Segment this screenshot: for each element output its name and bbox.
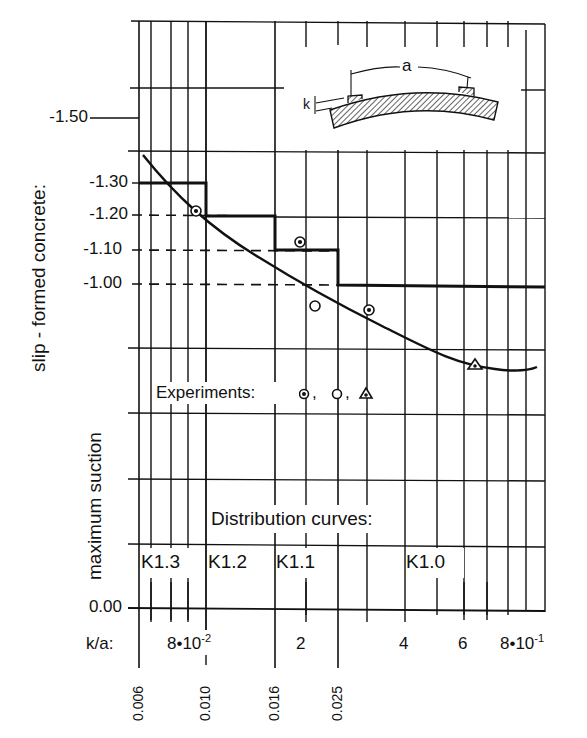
legend-comma-2: , xyxy=(345,383,350,403)
region-k1-1: K1.1 xyxy=(276,551,315,573)
region-k1-3: K1.3 xyxy=(141,551,180,573)
y-axis-label-bottom: maximum suction xyxy=(84,432,106,580)
x-tick-6: 6 xyxy=(458,634,467,654)
x-rot-0-016: 0.016 xyxy=(266,686,282,721)
x-rot-0-006: 0.006 xyxy=(130,686,146,721)
y-tick-1-50: -1.50 xyxy=(4,107,88,127)
x-rot-0-010: 0.010 xyxy=(197,686,213,721)
x-tick-2: 2 xyxy=(296,634,305,654)
inset-diagram xyxy=(315,52,516,128)
x-tick-8e-2: 8•10-2 xyxy=(167,634,211,654)
region-k1-0: K1.0 xyxy=(406,551,445,573)
y-tick-1-30: -1.30 xyxy=(44,172,128,192)
marker-circle xyxy=(310,301,320,311)
distribution-step-curve xyxy=(139,183,545,287)
inset-label-k: k xyxy=(303,96,310,112)
experiments-label: Experiments: xyxy=(156,383,255,403)
y-tick-1-20: -1.20 xyxy=(44,204,128,224)
fitted-curve xyxy=(143,155,537,370)
x-axis-label: k/a: xyxy=(86,634,113,654)
distribution-label: Distribution curves: xyxy=(211,508,373,530)
region-k1-2: K1.2 xyxy=(208,551,247,573)
y-tick-1-00: -1.00 xyxy=(38,273,122,293)
legend-comma-1: , xyxy=(312,383,317,403)
y-tick-0-00: 0.00 xyxy=(38,597,122,617)
y-tick-1-10: -1.10 xyxy=(38,239,122,259)
chart-canvas xyxy=(0,0,587,738)
inset-label-a: a xyxy=(402,56,411,76)
x-rot-0-025: 0.025 xyxy=(329,686,345,721)
x-tick-8e-1: 8•10-1 xyxy=(500,634,544,654)
y-axis-label-top: slip - formed concrete: xyxy=(28,184,50,372)
x-tick-4: 4 xyxy=(399,634,408,654)
